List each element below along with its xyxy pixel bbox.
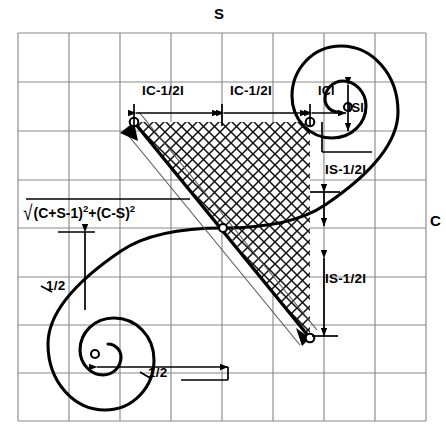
label-c-minus-half-left: IC-1/2I: [142, 84, 184, 98]
label-s-minus-half-upper: IS-1/2I: [325, 163, 366, 177]
spiral-eye-center-lower: [91, 350, 99, 358]
formula-body-a: (C+S-1): [34, 205, 83, 221]
radical-sign: √: [23, 202, 32, 223]
dimension-s-minus-half-lower: [312, 258, 338, 336]
formula-exp-b: 2: [130, 203, 135, 214]
label-abs-c: ICI: [318, 85, 335, 98]
axis-label-s: S: [214, 6, 224, 21]
vertex-lower-right: [306, 334, 315, 343]
label-abs-s: ISI: [348, 102, 364, 115]
label-half-upper: 1/2: [46, 279, 65, 293]
label-half-lower: 1/2: [148, 366, 167, 380]
formula-body-b: (C-S): [96, 205, 129, 221]
label-c-minus-half-right: IC-1/2I: [230, 84, 272, 98]
dimension-half-vertical: [58, 232, 95, 310]
label-s-minus-half-lower: IS-1/2I: [325, 272, 366, 286]
vertex-center: [219, 224, 227, 232]
axis-label-c: C: [430, 213, 441, 228]
formula-expression: √(C+S-1)2+(C-S)2: [22, 202, 135, 223]
